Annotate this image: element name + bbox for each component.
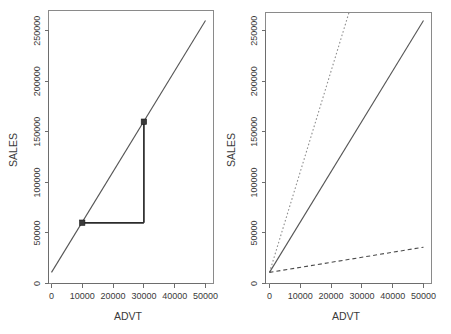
figure-two-panel-plot: 0 50000 100000 150000 200000 250000 0 10… [0, 0, 451, 334]
panel-right-x-tick-labels: 0 10000 20000 30000 40000 50000 [267, 291, 436, 301]
panel-left-data [52, 21, 206, 273]
point-lower-left [80, 220, 85, 225]
x-tick-label-10000: 10000 [288, 291, 313, 301]
panel-right-y-tick-labels: 0 50000 100000 150000 200000 250000 [249, 16, 259, 286]
shallow-line [270, 247, 424, 272]
y-tick-label-50000: 50000 [32, 220, 42, 245]
panel-left-x-ticks [52, 284, 206, 288]
y-tick-label-200000: 200000 [32, 66, 42, 96]
x-tick-label-30000: 30000 [349, 291, 374, 301]
panel-left: 0 50000 100000 150000 200000 250000 0 10… [0, 0, 225, 334]
panel-right-x-ticks [270, 284, 424, 288]
panel-left-x-axis-title: ADVT [114, 310, 143, 322]
panel-left-y-tick-labels: 0 50000 100000 150000 200000 250000 [32, 16, 42, 286]
steep-line [270, 11, 350, 273]
x-tick-label-40000: 40000 [380, 291, 405, 301]
y-tick-label-100000: 100000 [32, 167, 42, 197]
y-tick-label-150000: 150000 [32, 117, 42, 147]
panel-left-y-axis-title: SALES [7, 133, 19, 167]
panel-left-canvas: 0 50000 100000 150000 200000 250000 0 10… [0, 0, 225, 334]
x-tick-label-30000: 30000 [131, 291, 156, 301]
x-tick-label-50000: 50000 [411, 291, 436, 301]
point-upper-right [141, 119, 146, 124]
y-tick-label-150000: 150000 [249, 117, 259, 147]
panel-right-canvas: 0 50000 100000 150000 200000 250000 0 10… [225, 0, 451, 334]
x-tick-label-0: 0 [267, 291, 272, 301]
panel-left-y-ticks [45, 31, 49, 284]
panel-right-y-axis-title: SALES [225, 133, 237, 167]
panel-right-data [270, 11, 424, 273]
regression-line [52, 21, 206, 273]
x-tick-label-50000: 50000 [193, 291, 218, 301]
panel-left-plot-frame [49, 11, 214, 284]
panel-right-y-ticks [262, 31, 266, 284]
panel-right-x-axis-title: ADVT [332, 310, 361, 322]
y-tick-label-200000: 200000 [249, 66, 259, 96]
x-tick-label-20000: 20000 [319, 291, 344, 301]
y-tick-label-50000: 50000 [249, 220, 259, 245]
medium-line [270, 21, 424, 273]
y-tick-label-100000: 100000 [249, 167, 259, 197]
y-tick-label-0: 0 [249, 281, 259, 286]
x-tick-label-0: 0 [49, 291, 54, 301]
x-tick-label-20000: 20000 [101, 291, 126, 301]
panel-left-x-tick-labels: 0 10000 20000 30000 40000 50000 [49, 291, 218, 301]
y-tick-label-0: 0 [32, 281, 42, 286]
panel-right: 0 50000 100000 150000 200000 250000 0 10… [225, 0, 450, 334]
y-tick-label-250000: 250000 [32, 16, 42, 46]
panel-right-plot-frame [266, 13, 432, 284]
x-tick-label-40000: 40000 [162, 291, 187, 301]
x-tick-label-10000: 10000 [70, 291, 95, 301]
y-tick-label-250000: 250000 [249, 16, 259, 46]
